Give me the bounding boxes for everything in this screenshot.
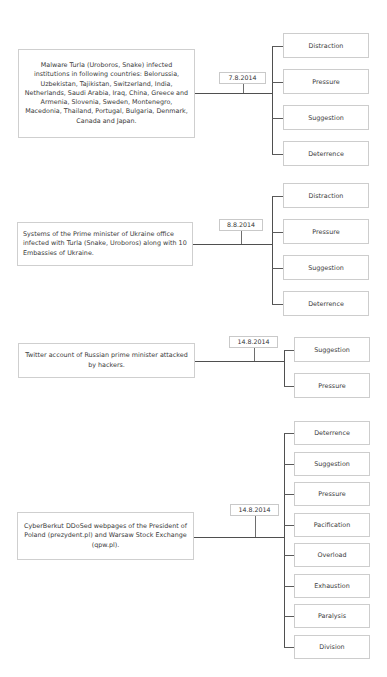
effect-box-label: Suggestion (314, 346, 350, 354)
effect-box-label: Pressure (318, 490, 345, 498)
effect-box: Distraction (283, 33, 369, 58)
effect-stub-connector (284, 525, 294, 526)
effect-box: Deterrence (283, 291, 369, 316)
event-description-box: Twitter account of Russian prime ministe… (18, 343, 195, 378)
effect-stub-connector (284, 586, 294, 587)
effect-box: Pressure (283, 219, 369, 244)
effect-stub-connector (272, 82, 283, 83)
effect-stub-connector (272, 268, 283, 269)
effect-box: Pressure (283, 69, 369, 94)
event-date-label: 14.8.2014 (230, 504, 279, 516)
effect-stub-connector (272, 304, 283, 305)
effect-box-label: Pressure (312, 228, 339, 236)
event-date-label: 7.8.2014 (219, 72, 266, 84)
effect-box-label: Suggestion (314, 460, 350, 468)
event-description-text: Malware Turla (Uroboros, Snake) infected… (24, 61, 189, 125)
effects-spine-connector (284, 350, 285, 386)
effect-box: Division (294, 635, 370, 659)
effect-stub-connector (284, 647, 294, 648)
effect-stub-connector (272, 154, 283, 155)
event-description-text: CyberBerkut DDoSed webpages of the Presi… (23, 522, 188, 550)
effects-spine-connector (272, 196, 273, 304)
event-description-box: CyberBerkut DDoSed webpages of the Presi… (17, 512, 194, 560)
date-stem-connector (254, 348, 255, 361)
effect-box: Deterrence (283, 141, 369, 166)
effect-box-label: Paralysis (318, 612, 346, 620)
event-description-box: Systems of the Prime minister of Ukraine… (17, 222, 193, 266)
effect-box: Suggestion (283, 255, 369, 280)
effect-box: Suggestion (294, 337, 370, 362)
effect-stub-connector (284, 555, 294, 556)
date-stem-connector (255, 516, 256, 537)
effect-box-label: Pacification (314, 521, 350, 529)
effect-box-label: Suggestion (308, 114, 344, 122)
effect-stub-connector (284, 433, 294, 434)
effect-stub-connector (272, 196, 283, 197)
trunk-connector (193, 244, 273, 245)
effect-box-label: Distraction (309, 192, 344, 200)
trunk-connector (195, 361, 285, 362)
effect-box-label: Pressure (318, 382, 345, 390)
effect-box-label: Exhaustion (314, 582, 349, 590)
effect-stub-connector (284, 494, 294, 495)
effect-box: Pacification (294, 513, 370, 537)
effects-spine-connector (284, 433, 285, 647)
event-description-box: Malware Turla (Uroboros, Snake) infected… (18, 49, 195, 138)
date-stem-connector (243, 84, 244, 93)
effect-box-label: Suggestion (308, 264, 344, 272)
effect-stub-connector (284, 616, 294, 617)
date-stem-connector (241, 231, 242, 244)
trunk-connector (195, 93, 273, 94)
effect-box-label: Distraction (309, 42, 344, 50)
effect-box-label: Deterrence (308, 150, 344, 158)
effect-box: Paralysis (294, 604, 370, 628)
event-date-label: 8.8.2014 (219, 219, 263, 231)
effect-box: Suggestion (283, 105, 369, 130)
effect-box: Suggestion (294, 452, 370, 476)
effects-spine-connector (272, 46, 273, 154)
effect-box-label: Deterrence (308, 300, 344, 308)
effect-box-label: Deterrence (314, 429, 350, 437)
trunk-connector (194, 537, 285, 538)
event-description-text: Twitter account of Russian prime ministe… (24, 351, 189, 369)
effect-box-label: Pressure (312, 78, 339, 86)
effect-stub-connector (284, 464, 294, 465)
effect-box: Pressure (294, 373, 370, 398)
event-date-label: 14.8.2014 (229, 336, 278, 348)
effect-stub-connector (272, 232, 283, 233)
effect-stub-connector (284, 386, 294, 387)
event-description-text: Systems of the Prime minister of Ukraine… (23, 230, 187, 258)
effect-box: Pressure (294, 482, 370, 506)
effect-box-label: Division (319, 643, 344, 651)
effect-stub-connector (284, 350, 294, 351)
effect-box: Distraction (283, 183, 369, 208)
effect-box-label: Overload (317, 551, 346, 559)
effect-box: Overload (294, 543, 370, 567)
effect-stub-connector (272, 46, 283, 47)
effect-box: Deterrence (294, 421, 370, 445)
incident-effects-diagram: Malware Turla (Uroboros, Snake) infected… (0, 0, 387, 677)
effect-box: Exhaustion (294, 574, 370, 598)
effect-stub-connector (272, 118, 283, 119)
